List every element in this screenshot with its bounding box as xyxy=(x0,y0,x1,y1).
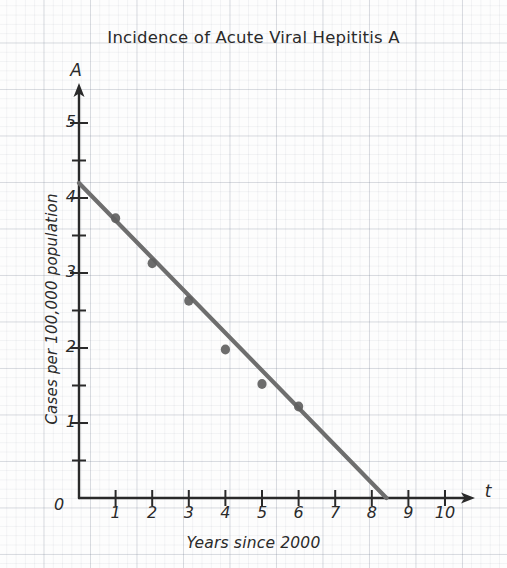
data-point xyxy=(294,402,303,412)
data-point xyxy=(111,213,120,223)
x-tick-label: 2 xyxy=(140,503,164,522)
graph-paper-canvas: Incidence of Acute Viral Hepititis A Cas… xyxy=(0,0,507,568)
x-tick-label: 9 xyxy=(396,503,420,522)
x-tick-label: 7 xyxy=(323,503,347,522)
data-point xyxy=(257,379,266,389)
y-tick-label: 2 xyxy=(54,337,76,356)
x-tick-label: 4 xyxy=(213,503,237,522)
x-tick-label: 10 xyxy=(433,503,457,522)
axes xyxy=(74,83,476,504)
y-tick-label: 4 xyxy=(54,187,76,206)
scatter-plot xyxy=(0,0,507,568)
axis-ticks xyxy=(70,123,445,506)
data-point xyxy=(184,296,193,306)
trend-line xyxy=(79,183,386,498)
x-tick-label: 5 xyxy=(250,503,274,522)
y-tick-label: 1 xyxy=(54,412,76,431)
data-point xyxy=(221,345,230,355)
x-tick-label: 3 xyxy=(177,503,201,522)
trend-line-segment xyxy=(79,183,386,498)
x-tick-label: 8 xyxy=(360,503,384,522)
y-tick-label: 3 xyxy=(54,262,76,281)
y-tick-label: 5 xyxy=(54,112,76,131)
x-tick-label: 6 xyxy=(287,503,311,522)
x-tick-label: 1 xyxy=(104,503,128,522)
data-point xyxy=(148,258,157,268)
